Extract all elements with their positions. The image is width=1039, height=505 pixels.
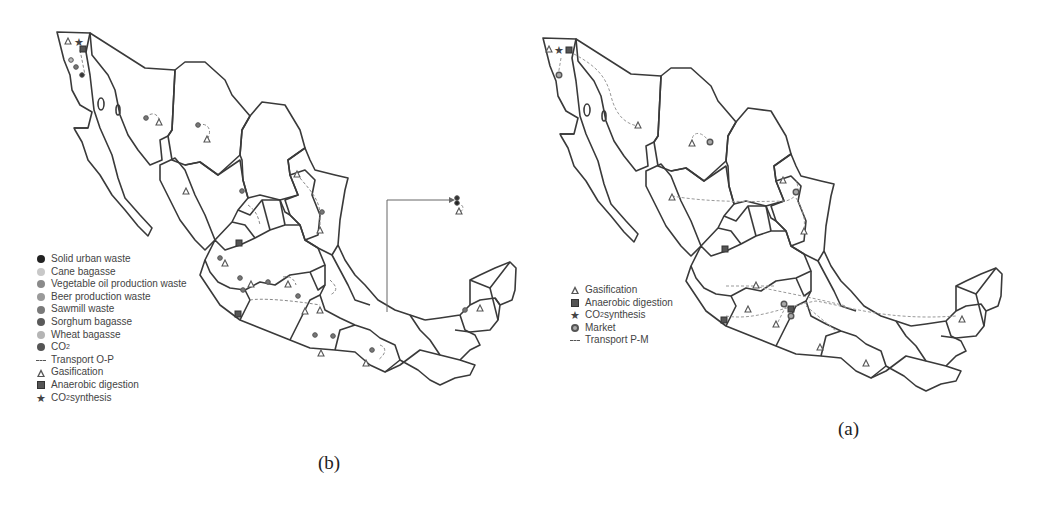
legend-item-sawmill-waste: Sawmill waste <box>36 303 187 316</box>
legend-item-wheat-bagasse: Wheat bagasse <box>36 329 187 342</box>
cane-bagasse-marker-icon <box>37 268 45 276</box>
square-icon <box>571 299 579 307</box>
legend-item-vegetable-oil-waste: Vegetable oil production waste <box>36 278 187 291</box>
map-panel-b: ★ Solid urban waste Cane bagasse Vegetab… <box>0 0 520 505</box>
map-panel-a: ★ Gasification Anaerobic digestion ★CO2 … <box>520 0 1039 505</box>
legend-item-gasification: Gasification <box>36 366 187 379</box>
legend-item-transport-op: Transport O-P <box>36 354 187 367</box>
vegetable-oil-waste-marker-icon <box>37 280 45 288</box>
star-icon: ★ <box>570 310 580 320</box>
sawmill-waste-marker-icon <box>37 306 45 314</box>
caption-b: (b) <box>318 452 340 474</box>
legend-item-co2-synthesis: ★CO2 synthesis <box>36 392 187 405</box>
caption-a: (a) <box>838 418 859 440</box>
legend-item-gasification: Gasification <box>570 284 673 297</box>
beer-waste-marker-icon <box>37 293 45 301</box>
mexico-map-a: ★ <box>520 0 1039 505</box>
dashed-line-icon <box>36 360 46 361</box>
legend-item-cane-bagasse: Cane bagasse <box>36 266 187 279</box>
legend-item-anaerobic-digestion: Anaerobic digestion <box>36 379 187 392</box>
star-icon: ★ <box>36 393 46 403</box>
legend-item-anaerobic-digestion: Anaerobic digestion <box>570 297 673 310</box>
legend-item-beer-production-waste: Beer production waste <box>36 291 187 304</box>
sorghum-bagasse-marker-icon <box>37 318 45 326</box>
legend-item-transport-pm: Transport P-M <box>570 334 673 347</box>
svg-text:★: ★ <box>554 44 564 57</box>
legend-a: Gasification Anaerobic digestion ★CO2 sy… <box>570 284 673 347</box>
co2-marker-icon <box>37 343 45 351</box>
solid-urban-waste-marker-icon <box>37 255 45 263</box>
legend-item-co2-synthesis: ★CO2 synthesis <box>570 309 673 322</box>
market-ring-icon <box>571 324 579 332</box>
legend-item-solid-urban-waste: Solid urban waste <box>36 253 187 266</box>
svg-text:★: ★ <box>74 36 84 49</box>
legend-item-sorghum-bagasse: Sorghum bagasse <box>36 316 187 329</box>
legend-item-co2: CO2 <box>36 341 187 354</box>
legend-item-market: Market <box>570 322 673 335</box>
legend-b: Solid urban waste Cane bagasse Vegetable… <box>36 253 187 404</box>
wheat-bagasse-marker-icon <box>37 331 45 339</box>
triangle-icon <box>37 369 45 377</box>
square-icon <box>37 381 45 389</box>
triangle-icon <box>571 286 579 294</box>
dashed-line-icon <box>570 340 580 341</box>
